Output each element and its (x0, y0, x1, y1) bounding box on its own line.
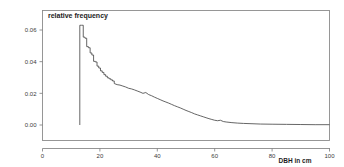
x-axis-label: DBH in cm (279, 157, 312, 164)
y-tick-label: 0.00 (25, 122, 37, 128)
figure-background (0, 0, 344, 167)
chart-figure: 0.000.020.040.06 020406080100 relative f… (0, 0, 344, 167)
x-tick-label: 20 (97, 153, 104, 159)
x-tick-label: 100 (324, 153, 335, 159)
x-tick-label: 40 (154, 153, 161, 159)
plot-title: relative frequency (48, 12, 108, 20)
y-tick-label: 0.04 (25, 59, 37, 65)
x-tick-label: 80 (269, 153, 276, 159)
y-tick-label: 0.06 (25, 27, 37, 33)
x-tick-label: 60 (211, 153, 218, 159)
y-tick-label: 0.02 (25, 91, 37, 97)
